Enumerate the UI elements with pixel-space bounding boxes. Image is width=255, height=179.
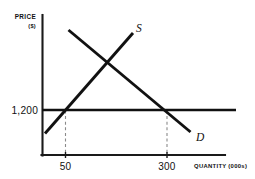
supply-demand-chart: PRICE ($) 1,200 50 300 QUANTITY (000s) S…	[0, 0, 255, 179]
x-axis-title: QUANTITY (000s)	[194, 163, 247, 169]
demand-curve-label: D	[195, 131, 205, 143]
x-tick-label-300: 300	[158, 161, 176, 172]
y-axis-unit: ($)	[28, 23, 36, 29]
y-tick-label-1200: 1,200	[12, 105, 39, 116]
chart-background	[0, 0, 255, 179]
supply-curve-label: S	[136, 22, 142, 34]
x-tick-label-50: 50	[60, 161, 72, 172]
y-axis-title: PRICE	[15, 13, 37, 20]
